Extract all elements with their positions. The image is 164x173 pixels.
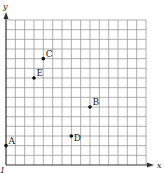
y-axis-arrow-icon (4, 12, 9, 19)
point-e (32, 76, 36, 80)
point-label-d: D (74, 133, 81, 143)
origin-mark: 1 (0, 166, 5, 173)
point-label-b: B (93, 97, 100, 107)
point-b (88, 105, 92, 109)
point-a (4, 144, 8, 148)
point-label-a: A (8, 136, 16, 146)
coordinate-grid: x y 1 ABCDE (0, 0, 164, 173)
y-axis-label: y (2, 2, 8, 11)
point-label-c: C (46, 49, 53, 59)
point-d (70, 134, 74, 138)
x-axis-label: x (157, 161, 162, 170)
points-layer: ABCDE (4, 49, 99, 148)
grid-lines (6, 20, 146, 165)
point-label-e: E (37, 68, 44, 78)
x-axis-arrow-icon (147, 163, 154, 168)
point-c (42, 57, 46, 61)
